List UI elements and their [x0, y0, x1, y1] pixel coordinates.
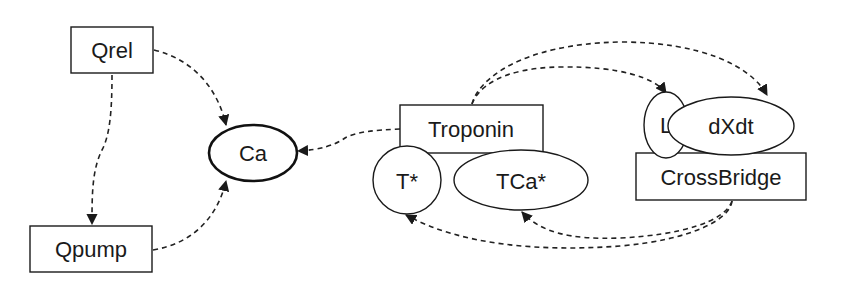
node-qpump: Qpump	[30, 226, 152, 272]
edge-qpump-to-ca	[153, 181, 226, 250]
node-crossbridge: CrossBridge	[636, 153, 806, 200]
node-tca-star-label: TCa*	[496, 169, 547, 194]
node-qrel-label: Qrel	[91, 38, 133, 63]
edge-troponin-to-ca	[298, 129, 400, 151]
node-crossbridge-label: CrossBridge	[660, 165, 781, 190]
node-ca-label: Ca	[239, 141, 268, 166]
node-qrel: Qrel	[71, 27, 153, 73]
node-tca-star: TCa*	[454, 150, 588, 210]
edge-qrel-to-qpump	[92, 75, 112, 224]
node-dxdt: dXdt	[668, 97, 794, 155]
node-dxdt-label: dXdt	[708, 114, 753, 139]
edge-qrel-to-ca	[154, 50, 226, 125]
node-troponin-label: Troponin	[428, 117, 514, 142]
node-qpump-label: Qpump	[55, 237, 127, 262]
node-t-star: T*	[373, 146, 441, 214]
dependency-diagram: Qrel Qpump Ca Troponin T* TCa* CrossBrid…	[0, 0, 854, 283]
edge-crossbridge-to-tstar	[406, 201, 732, 248]
node-t-star-label: T*	[396, 169, 418, 194]
edge-troponin-to-l	[472, 67, 666, 104]
node-troponin: Troponin	[400, 105, 543, 153]
node-ca: Ca	[209, 125, 297, 181]
